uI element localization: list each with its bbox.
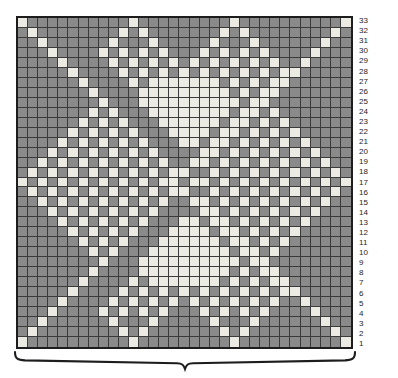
chart-cell[interactable] (250, 317, 260, 327)
chart-cell[interactable] (250, 227, 260, 237)
chart-cell[interactable] (99, 98, 109, 108)
chart-cell[interactable] (169, 48, 179, 58)
chart-cell[interactable] (28, 28, 38, 38)
chart-cell[interactable] (28, 78, 38, 88)
chart-cell[interactable] (301, 217, 311, 227)
chart-cell[interactable] (321, 98, 331, 108)
chart-cell[interactable] (301, 168, 311, 178)
chart-cell[interactable] (210, 257, 220, 267)
chart-cell[interactable] (159, 108, 169, 118)
chart-cell[interactable] (58, 88, 68, 98)
chart-cell[interactable] (341, 227, 351, 237)
chart-cell[interactable] (48, 337, 58, 347)
chart-cell[interactable] (331, 68, 341, 78)
chart-cell[interactable] (48, 68, 58, 78)
chart-cell[interactable] (220, 128, 230, 138)
chart-cell[interactable] (220, 317, 230, 327)
chart-cell[interactable] (301, 187, 311, 197)
chart-cell[interactable] (48, 138, 58, 148)
chart-cell[interactable] (129, 158, 139, 168)
chart-cell[interactable] (99, 28, 109, 38)
chart-cell[interactable] (190, 207, 200, 217)
chart-cell[interactable] (38, 337, 48, 347)
chart-cell[interactable] (89, 217, 99, 227)
chart-cell[interactable] (200, 217, 210, 227)
chart-cell[interactable] (28, 207, 38, 217)
chart-cell[interactable] (321, 307, 331, 317)
chart-cell[interactable] (129, 138, 139, 148)
chart-cell[interactable] (28, 277, 38, 287)
chart-cell[interactable] (109, 118, 119, 128)
chart-cell[interactable] (149, 277, 159, 287)
chart-cell[interactable] (341, 158, 351, 168)
chart-cell[interactable] (311, 197, 321, 207)
chart-cell[interactable] (200, 128, 210, 138)
chart-cell[interactable] (230, 58, 240, 68)
chart-cell[interactable] (68, 158, 78, 168)
chart-cell[interactable] (38, 207, 48, 217)
chart-cell[interactable] (250, 257, 260, 267)
chart-cell[interactable] (79, 88, 89, 98)
chart-cell[interactable] (179, 217, 189, 227)
chart-cell[interactable] (311, 217, 321, 227)
chart-cell[interactable] (190, 297, 200, 307)
chart-cell[interactable] (149, 38, 159, 48)
chart-cell[interactable] (190, 327, 200, 337)
chart-cell[interactable] (129, 168, 139, 178)
chart-cell[interactable] (58, 68, 68, 78)
chart-cell[interactable] (79, 58, 89, 68)
chart-cell[interactable] (89, 48, 99, 58)
chart-cell[interactable] (200, 287, 210, 297)
chart-cell[interactable] (210, 78, 220, 88)
chart-cell[interactable] (58, 247, 68, 257)
chart-cell[interactable] (58, 118, 68, 128)
chart-cell[interactable] (220, 187, 230, 197)
chart-cell[interactable] (321, 207, 331, 217)
chart-cell[interactable] (89, 247, 99, 257)
chart-cell[interactable] (331, 257, 341, 267)
chart-cell[interactable] (341, 217, 351, 227)
chart-cell[interactable] (119, 108, 129, 118)
chart-cell[interactable] (190, 48, 200, 58)
chart-cell[interactable] (169, 197, 179, 207)
chart-cell[interactable] (119, 217, 129, 227)
chart-cell[interactable] (28, 317, 38, 327)
chart-cell[interactable] (270, 68, 280, 78)
chart-cell[interactable] (68, 217, 78, 227)
chart-cell[interactable] (321, 18, 331, 28)
chart-cell[interactable] (280, 38, 290, 48)
chart-cell[interactable] (28, 68, 38, 78)
chart-cell[interactable] (240, 98, 250, 108)
chart-cell[interactable] (99, 108, 109, 118)
chart-cell[interactable] (260, 187, 270, 197)
chart-cell[interactable] (200, 227, 210, 237)
chart-cell[interactable] (321, 227, 331, 237)
chart-cell[interactable] (240, 277, 250, 287)
chart-cell[interactable] (139, 88, 149, 98)
chart-cell[interactable] (331, 108, 341, 118)
chart-cell[interactable] (190, 58, 200, 68)
chart-cell[interactable] (79, 98, 89, 108)
chart-cell[interactable] (139, 78, 149, 88)
chart-cell[interactable] (169, 247, 179, 257)
chart-cell[interactable] (28, 38, 38, 48)
chart-cell[interactable] (210, 48, 220, 58)
chart-cell[interactable] (280, 118, 290, 128)
chart-cell[interactable] (68, 48, 78, 58)
chart-cell[interactable] (18, 118, 28, 128)
chart-cell[interactable] (179, 58, 189, 68)
chart-cell[interactable] (68, 38, 78, 48)
chart-cell[interactable] (109, 138, 119, 148)
chart-cell[interactable] (200, 187, 210, 197)
chart-cell[interactable] (159, 257, 169, 267)
chart-cell[interactable] (210, 68, 220, 78)
chart-cell[interactable] (280, 158, 290, 168)
chart-cell[interactable] (240, 287, 250, 297)
chart-cell[interactable] (210, 118, 220, 128)
chart-cell[interactable] (270, 118, 280, 128)
chart-cell[interactable] (99, 178, 109, 188)
chart-cell[interactable] (159, 247, 169, 257)
chart-cell[interactable] (58, 227, 68, 237)
chart-cell[interactable] (18, 217, 28, 227)
chart-cell[interactable] (220, 88, 230, 98)
